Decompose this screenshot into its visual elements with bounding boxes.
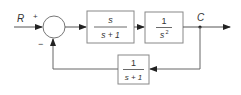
input-label-r: R: [17, 13, 24, 24]
block-2-one-over-s-squared: 1 s 2: [145, 12, 183, 43]
block-1-numerator: s: [108, 15, 113, 25]
block-2-numerator: 1: [161, 16, 166, 26]
feedback-block-denominator: s + 1: [125, 73, 143, 82]
block-1-denominator: s + 1: [101, 30, 120, 40]
block-2-denominator-exponent: 2: [165, 29, 168, 35]
output-label-c: C: [197, 12, 205, 23]
block-1-s-over-s-plus-1: s s + 1: [87, 11, 134, 43]
plus-sign: +: [33, 12, 38, 21]
feedback-block-numerator: 1: [131, 58, 136, 68]
feedback-block-one-over-s-plus-1: 1 s + 1: [118, 55, 149, 84]
summing-junction: [43, 16, 65, 38]
block-diagram: R + − s s + 1 1 s 2 C 1 s + 1: [0, 0, 241, 95]
minus-sign: −: [38, 39, 43, 49]
